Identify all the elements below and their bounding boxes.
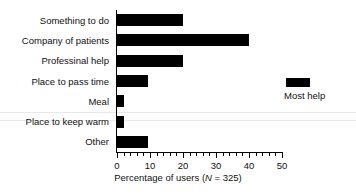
x-axis-major-tick (249, 153, 250, 158)
bar (117, 136, 148, 148)
bar (117, 55, 183, 67)
x-axis-minor-tick (157, 153, 158, 156)
x-axis-minor-tick (209, 153, 210, 156)
x-axis-minor-tick (190, 153, 191, 156)
category-label: Place to keep warm (26, 115, 109, 128)
category-label: Meal (88, 95, 109, 108)
x-axis-title-italic-n: N (205, 172, 212, 183)
x-axis-minor-tick (196, 153, 197, 156)
x-axis-minor-tick (203, 153, 204, 156)
x-axis-minor-tick (236, 153, 237, 156)
x-axis-minor-tick (170, 153, 171, 156)
legend-swatch-most-help (286, 78, 310, 87)
x-axis-minor-tick (242, 153, 243, 156)
x-axis-title-before: Percentage of users ( (114, 172, 205, 183)
bar (117, 95, 124, 107)
x-axis-major-tick (150, 153, 151, 158)
x-axis-minor-tick (163, 153, 164, 156)
bar (117, 75, 148, 87)
category-label: Something to do (40, 14, 109, 27)
x-axis-major-tick (282, 153, 283, 158)
x-axis-tick-label: 30 (205, 160, 227, 171)
x-axis-tick-label: 40 (238, 160, 260, 171)
x-axis-minor-tick (223, 153, 224, 156)
x-axis-minor-tick (176, 153, 177, 156)
x-axis-major-tick (216, 153, 217, 158)
bar (117, 14, 183, 26)
plot-area: 01020304050 (117, 10, 282, 152)
category-label: Professinal help (41, 54, 109, 67)
bar (117, 116, 124, 128)
x-axis-tick-label: 0 (106, 160, 128, 171)
category-label: Company of patients (22, 34, 109, 47)
x-axis-minor-tick (256, 153, 257, 156)
x-axis-minor-tick (130, 153, 131, 156)
category-label: Other (85, 135, 109, 148)
category-label: Place to pass time (31, 75, 109, 88)
x-axis-minor-tick (262, 153, 263, 156)
x-axis-tick-label: 50 (271, 160, 293, 171)
x-axis-minor-tick (137, 153, 138, 156)
category-axis-labels: Something to doCompany of patientsProfes… (0, 10, 113, 152)
x-axis-minor-tick (269, 153, 270, 156)
legend: Most help (284, 78, 346, 106)
x-axis-title-after: = 325) (212, 172, 242, 183)
legend-label-most-help: Most help (284, 90, 325, 102)
x-axis-minor-tick (229, 153, 230, 156)
x-axis-minor-tick (124, 153, 125, 156)
x-axis-major-tick (117, 153, 118, 158)
bar-chart: Something to doCompany of patientsProfes… (0, 0, 356, 194)
x-axis-tick-label: 10 (139, 160, 161, 171)
x-axis-minor-tick (143, 153, 144, 156)
bar (117, 34, 249, 46)
x-axis-major-tick (183, 153, 184, 158)
x-axis-minor-tick (275, 153, 276, 156)
x-axis-tick-label: 20 (172, 160, 194, 171)
x-axis-line (116, 152, 283, 153)
x-axis-title: Percentage of users (N = 325) (0, 172, 356, 183)
